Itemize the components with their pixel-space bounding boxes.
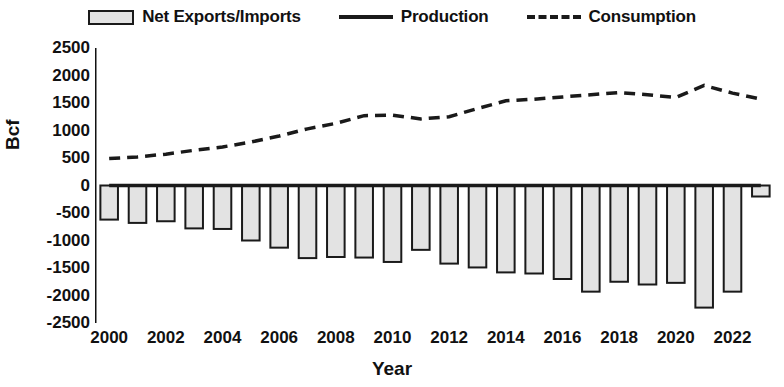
y-axis-tick-label: -1500	[47, 258, 90, 278]
x-axis-tick-label: 2002	[147, 328, 185, 348]
x-axis-tick-label: 2016	[544, 328, 582, 348]
x-axis-tick-label: 2004	[204, 328, 242, 348]
dashed-line-icon	[527, 15, 581, 19]
bar[interactable]	[157, 186, 175, 222]
x-axis-tick-label: 2010	[374, 328, 412, 348]
bar-series-net-exports-imports	[100, 186, 769, 308]
x-axis-tick-label: 2022	[714, 328, 752, 348]
bar-swatch-icon	[88, 10, 134, 25]
plot-svg	[95, 48, 775, 323]
legend-item-consumption: Consumption	[527, 7, 696, 27]
x-axis-tick-label: 2018	[600, 328, 638, 348]
bar[interactable]	[299, 186, 317, 259]
y-axis-tick-label: -2000	[47, 286, 90, 306]
bar[interactable]	[610, 186, 628, 282]
bar[interactable]	[440, 186, 458, 264]
legend-item-net-exports-imports: Net Exports/Imports	[88, 7, 301, 27]
x-axis-title: Year	[0, 358, 784, 380]
bar[interactable]	[355, 186, 373, 258]
chart-container: Net Exports/Imports Production Consumpti…	[0, 0, 784, 387]
y-axis-title: Bcf	[2, 119, 24, 150]
bar[interactable]	[525, 186, 543, 274]
bar[interactable]	[497, 186, 515, 273]
x-axis-tick-label: 2012	[430, 328, 468, 348]
y-axis-tick-label: -1000	[47, 231, 90, 251]
y-axis-tick-label: -2500	[47, 313, 90, 333]
x-axis-tick-labels: 2000200220042006200820102012201420162018…	[95, 328, 775, 352]
legend-label-net-exports-imports: Net Exports/Imports	[142, 7, 301, 27]
y-axis-tick-label: 2000	[52, 66, 90, 86]
y-axis-tick-label: 0	[81, 176, 90, 196]
bar[interactable]	[242, 186, 260, 241]
y-axis-tick-label: 1000	[52, 121, 90, 141]
y-axis-tick-label: 1500	[52, 93, 90, 113]
bar[interactable]	[469, 186, 487, 268]
bar[interactable]	[412, 186, 430, 250]
x-axis-tick-label: 2008	[317, 328, 355, 348]
bar[interactable]	[100, 186, 118, 220]
bar[interactable]	[554, 186, 572, 280]
chart-legend: Net Exports/Imports Production Consumpti…	[0, 0, 784, 34]
bar[interactable]	[270, 186, 288, 248]
bar[interactable]	[327, 186, 345, 258]
bar[interactable]	[129, 186, 147, 223]
legend-item-production: Production	[339, 7, 489, 27]
bar[interactable]	[724, 186, 742, 292]
bar[interactable]	[667, 186, 685, 283]
x-axis-tick-label: 2014	[487, 328, 525, 348]
bar[interactable]	[185, 186, 203, 229]
line-series-consumption[interactable]	[109, 85, 761, 158]
x-axis-tick-label: 2000	[90, 328, 128, 348]
bar[interactable]	[384, 186, 402, 262]
bar[interactable]	[639, 186, 657, 285]
x-axis-tick-label: 2006	[260, 328, 298, 348]
y-axis-tick-label: 2500	[52, 38, 90, 58]
plot-area	[95, 48, 775, 323]
solid-line-icon	[339, 15, 393, 19]
bar[interactable]	[214, 186, 232, 229]
x-axis-tick-label: 2020	[657, 328, 695, 348]
y-axis-tick-labels: 25002000150010005000-500-1000-1500-2000-…	[28, 48, 90, 323]
y-axis-tick-label: -500	[56, 203, 90, 223]
bar[interactable]	[582, 186, 600, 292]
legend-label-production: Production	[401, 7, 489, 27]
legend-label-consumption: Consumption	[589, 7, 696, 27]
y-axis-tick-label: 500	[62, 148, 90, 168]
bar[interactable]	[695, 186, 713, 308]
